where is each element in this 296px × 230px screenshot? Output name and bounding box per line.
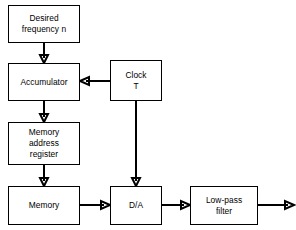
block-desired-frequency[interactable]: Desired frequency n <box>8 5 80 43</box>
block-desired-frequency-label: Desired frequency n <box>20 13 68 35</box>
connector-filter-output <box>258 201 294 209</box>
block-accumulator[interactable]: Accumulator <box>8 63 80 101</box>
block-low-pass-filter[interactable]: Low-pass filter <box>190 186 258 225</box>
block-da-converter-label: D/A <box>127 200 145 211</box>
connector-clock-to-accumulator <box>80 77 110 85</box>
connector-clock-to-da <box>132 101 140 186</box>
connector-memory-to-da <box>80 201 110 209</box>
connector-desired-to-accumulator <box>40 43 48 63</box>
connector-da-to-filter <box>162 201 190 209</box>
block-diagram: Desired frequency n Accumulator Clock T … <box>0 0 296 230</box>
block-clock-label: Clock T <box>123 70 148 92</box>
block-clock[interactable]: Clock T <box>110 60 162 101</box>
connector-mar-to-memory <box>40 165 48 186</box>
block-memory-label: Memory <box>27 200 62 211</box>
block-memory-address-register[interactable]: Memory address register <box>8 122 80 165</box>
block-memory-address-register-label: Memory address register <box>27 127 62 160</box>
block-memory[interactable]: Memory <box>8 186 80 225</box>
block-accumulator-label: Accumulator <box>18 77 69 88</box>
block-da-converter[interactable]: D/A <box>110 186 162 225</box>
block-low-pass-filter-label: Low-pass filter <box>204 195 244 217</box>
connector-accumulator-to-mar <box>40 101 48 122</box>
